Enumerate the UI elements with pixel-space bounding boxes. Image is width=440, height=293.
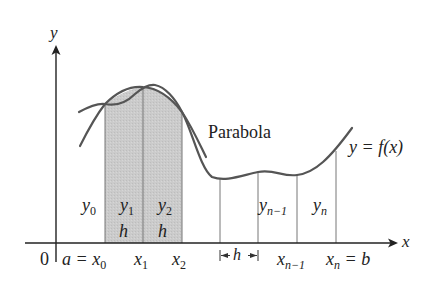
simpsons-rule-diagram: y x 0 Parabola y = f(x) a = x0 x1 x2 xn−…: [0, 0, 440, 293]
a-equals-x0-label: a = x0: [62, 250, 106, 271]
h-bracket-label: h: [233, 247, 241, 263]
x1-label: x1: [134, 250, 148, 271]
y2-label: y2: [158, 196, 172, 217]
yn-label: yn: [313, 196, 327, 217]
xn-equals-b-label: xn = b: [326, 250, 370, 271]
x-axis-label: x: [402, 233, 410, 250]
h-label-second: h: [158, 222, 167, 240]
h-label-first: h: [119, 222, 128, 240]
y-axis-label: y: [50, 24, 58, 41]
origin-label: 0: [40, 250, 49, 268]
y1-label: y1: [120, 196, 134, 217]
yn-minus-1-label: yn−1: [259, 196, 287, 217]
parabola-label: Parabola: [208, 123, 271, 141]
y0-label: y0: [82, 196, 96, 217]
x2-label: x2: [172, 250, 186, 271]
curve-label: y = f(x): [349, 138, 403, 156]
xn-minus-1-label: xn−1: [277, 250, 305, 271]
